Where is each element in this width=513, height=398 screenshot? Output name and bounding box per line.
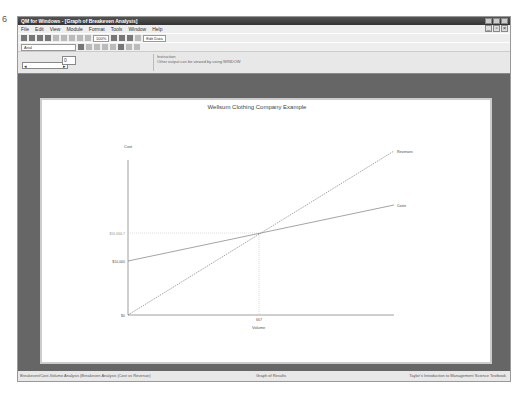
menu-window[interactable]: Window bbox=[128, 25, 146, 33]
menu-file[interactable]: File bbox=[21, 25, 29, 33]
app-window: QM for Windows - [Graph of Breakeven Ana… bbox=[17, 16, 511, 382]
breakeven-chart: Wellsum Clothing Company Example Cost Vo… bbox=[42, 100, 490, 362]
window-title: QM for Windows - [Graph of Breakeven Ana… bbox=[21, 18, 137, 24]
y-tick-fixed: $10,000 bbox=[112, 260, 125, 264]
cut-icon[interactable] bbox=[69, 35, 75, 41]
format-toolbar: Arial bbox=[18, 42, 510, 51]
open-icon[interactable] bbox=[29, 35, 35, 41]
y-axis-label: Cost bbox=[124, 144, 133, 149]
menu-module[interactable]: Module bbox=[66, 25, 82, 33]
chart-icon[interactable] bbox=[127, 35, 133, 41]
instruction-text: Other output can be viewed by using WIND… bbox=[157, 59, 493, 64]
x-tick-breakeven: 667 bbox=[256, 318, 262, 322]
mdi-workspace: Wellsum Clothing Company Example Cost Vo… bbox=[18, 73, 510, 373]
mdi-minimize-button[interactable]: _ bbox=[485, 25, 492, 32]
table-icon[interactable] bbox=[119, 35, 125, 41]
standard-toolbar: 100% Edit Data bbox=[18, 33, 510, 42]
undo-icon[interactable] bbox=[77, 35, 83, 41]
minimize-button[interactable] bbox=[485, 18, 492, 24]
align-icon[interactable] bbox=[85, 35, 91, 41]
mdi-close-button[interactable]: × bbox=[501, 25, 508, 32]
page-number: 6 bbox=[2, 14, 7, 24]
x-axis-label: Volume bbox=[252, 325, 266, 330]
status-right: Taylor's Introduction to Management Scie… bbox=[409, 371, 506, 381]
paste-icon[interactable] bbox=[61, 35, 67, 41]
close-button[interactable] bbox=[501, 18, 508, 24]
zoom-select[interactable]: 100% bbox=[93, 35, 109, 42]
menu-view[interactable]: View bbox=[50, 25, 61, 33]
align-left-icon[interactable] bbox=[102, 44, 108, 50]
font-color-icon[interactable] bbox=[134, 44, 140, 50]
title-bar: QM for Windows - [Graph of Breakeven Ana… bbox=[18, 17, 510, 25]
costs-line bbox=[128, 205, 394, 261]
status-left: Breakeven/Cost-Volume Analysis (Breakeve… bbox=[20, 371, 151, 381]
font-select[interactable]: Arial bbox=[21, 44, 76, 51]
maximize-button[interactable] bbox=[493, 18, 500, 24]
italic-icon[interactable] bbox=[86, 44, 92, 50]
align-center-icon[interactable] bbox=[110, 44, 116, 50]
status-center: Graph of Results bbox=[256, 371, 286, 381]
menu-help[interactable]: Help bbox=[152, 25, 162, 33]
instruction-panel: ◂▸ 0 Instruction Other output can be vie… bbox=[18, 51, 510, 73]
menu-edit[interactable]: Edit bbox=[35, 25, 44, 33]
menu-tools[interactable]: Tools bbox=[111, 25, 123, 33]
y-tick-breakeven: $16,666.7 bbox=[109, 232, 125, 236]
decimal-icon[interactable] bbox=[118, 44, 124, 50]
copy-icon[interactable] bbox=[53, 35, 59, 41]
print-icon[interactable] bbox=[45, 35, 51, 41]
costs-label: Costs bbox=[397, 204, 406, 208]
new-icon[interactable] bbox=[21, 35, 27, 41]
menu-format[interactable]: Format bbox=[89, 25, 105, 33]
bold-icon[interactable] bbox=[78, 44, 84, 50]
graph-window: Wellsum Clothing Company Example Cost Vo… bbox=[40, 98, 492, 364]
revenues-label: Revenues bbox=[397, 150, 413, 154]
solve-icon[interactable] bbox=[111, 35, 117, 41]
menu-bar: File Edit View Module Format Tools Windo… bbox=[18, 25, 510, 33]
underline-icon[interactable] bbox=[94, 44, 100, 50]
edit-data-button[interactable]: Edit Data bbox=[143, 35, 165, 42]
status-bar: Breakeven/Cost-Volume Analysis (Breakeve… bbox=[18, 371, 510, 381]
spinner-input[interactable]: 0 bbox=[62, 56, 76, 65]
fill-color-icon[interactable] bbox=[126, 44, 132, 50]
chart-title: Wellsum Clothing Company Example bbox=[208, 104, 308, 110]
save-icon[interactable] bbox=[37, 35, 43, 41]
mdi-restore-button[interactable]: ▫ bbox=[493, 25, 500, 32]
y-tick-0: $0 bbox=[121, 314, 125, 318]
help-icon[interactable] bbox=[135, 35, 141, 41]
